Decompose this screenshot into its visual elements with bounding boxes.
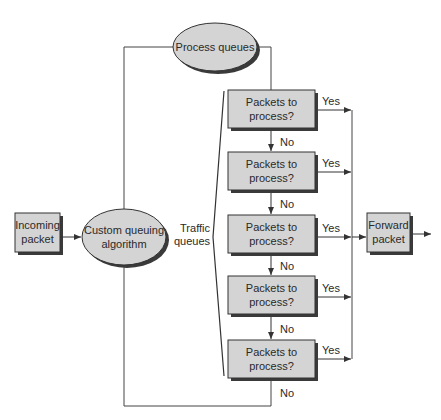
yes-arrows — [318, 110, 351, 359]
incoming-packet-node: Incoming packet — [15, 213, 63, 255]
queue-3-line2: process? — [249, 235, 294, 247]
custom-queuing-algorithm-node: Custom queuing algorithm — [82, 209, 169, 268]
queue-decision-5: Packets to process? — [228, 340, 318, 381]
no-label-4: No — [280, 323, 294, 335]
yes-label-1: Yes — [322, 95, 340, 107]
algorithm-line2: algorithm — [101, 238, 146, 250]
queue-2-line2: process? — [249, 172, 294, 184]
no-label-5: No — [280, 387, 294, 399]
forward-packet-line2: packet — [372, 233, 404, 245]
queue-4-line1: Packets to — [246, 282, 297, 294]
queue-3-line1: Packets to — [246, 221, 297, 233]
yes-label-5: Yes — [322, 344, 340, 356]
algorithm-line1: Custom queuing — [84, 224, 164, 236]
queue-5-line2: process? — [249, 360, 294, 372]
forward-packet-line1: Forward — [368, 219, 408, 231]
process-queues-node: Process queues — [173, 23, 260, 74]
no-label-2: No — [280, 198, 294, 210]
yes-label-3: Yes — [322, 222, 340, 234]
incoming-packet-line1: Incoming — [15, 219, 60, 231]
no-label-1: No — [280, 136, 294, 148]
no-label-3: No — [280, 260, 294, 272]
yes-label-2: Yes — [322, 157, 340, 169]
queue-decision-4: Packets to process? — [228, 276, 318, 317]
queue-1-line2: process? — [249, 110, 294, 122]
traffic-queues-line2: queues — [174, 235, 211, 247]
traffic-queues-brace — [213, 91, 224, 376]
queue-4-line2: process? — [249, 296, 294, 308]
queue-1-line1: Packets to — [246, 96, 297, 108]
queue-decision-3: Packets to process? — [228, 215, 318, 256]
queue-decision-2: Packets to process? — [228, 152, 318, 193]
queue-2-line1: Packets to — [246, 158, 297, 170]
queue-decision-1: Packets to process? — [228, 90, 318, 131]
yes-label-4: Yes — [322, 282, 340, 294]
custom-queuing-flowchart: Process queues Incoming packet Custom qu… — [0, 0, 441, 420]
process-queues-label: Process queues — [176, 41, 255, 53]
queue-5-line1: Packets to — [246, 346, 297, 358]
incoming-packet-line2: packet — [21, 233, 53, 245]
forward-packet-node: Forward packet — [367, 213, 413, 255]
traffic-queues-line1: Traffic — [180, 222, 210, 234]
